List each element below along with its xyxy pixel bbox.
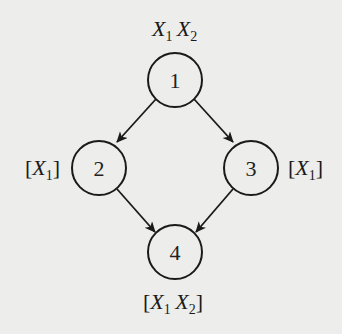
- var-subscript: 1: [309, 168, 316, 183]
- node-1: 1: [148, 53, 202, 107]
- edge-3-to-4: [196, 189, 233, 232]
- var-name: X: [32, 155, 45, 180]
- var-name: X: [295, 155, 308, 180]
- var-name: X: [152, 16, 165, 41]
- close-bracket: ]: [196, 289, 203, 314]
- node-1-annotation: X1 X2: [152, 18, 197, 40]
- var-subscript: 2: [189, 302, 196, 317]
- close-bracket: ]: [316, 155, 323, 180]
- node-3-number: 3: [246, 156, 257, 181]
- node-1-number: 1: [170, 68, 181, 93]
- var-name: X: [175, 289, 188, 314]
- var-subscript: 1: [46, 168, 53, 183]
- node-3: 3: [224, 141, 278, 195]
- var-subscript: 2: [190, 29, 197, 44]
- edge-1-to-3: [194, 99, 233, 142]
- node-2: 2: [72, 141, 126, 195]
- var-subscript: 1: [164, 302, 171, 317]
- node-4: 4: [148, 225, 202, 279]
- var-name: X: [150, 289, 163, 314]
- var-name: X: [177, 16, 190, 41]
- node-3-annotation: [X1]: [288, 157, 323, 179]
- node-4-annotation: [X1 X2]: [143, 291, 203, 313]
- edge-1-to-2: [117, 99, 156, 142]
- node-4-number: 4: [170, 240, 181, 265]
- node-2-number: 2: [94, 156, 105, 181]
- close-bracket: ]: [53, 155, 60, 180]
- edge-2-to-4: [117, 189, 155, 232]
- node-2-annotation: [X1]: [25, 157, 60, 179]
